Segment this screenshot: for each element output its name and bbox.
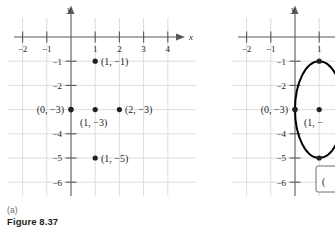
x-tick-label: 3 [141, 44, 146, 54]
panel-b: y −2 −1 1 −1 −2 −4 −5 [210, 0, 335, 238]
x-tick-label: −2 [242, 44, 252, 54]
y-tick-label: −6 [276, 178, 286, 188]
caption-letter-a: (a) [7, 205, 58, 216]
plot-panel-a: x y −2 −1 1 2 3 4 [0, 0, 205, 200]
x-tick-label: −2 [18, 44, 28, 54]
x-axis-label: x [188, 32, 193, 42]
panel-a: x y −2 −1 1 2 3 4 [0, 0, 205, 238]
data-point [317, 59, 322, 64]
data-point [93, 155, 98, 160]
y-tick-label: −2 [276, 81, 286, 91]
y-axis-label: y [66, 4, 71, 14]
x-tick-label: 4 [166, 44, 171, 54]
y-axis-tick-labels: −1 −2 −4 −5 −6 [276, 57, 286, 188]
x-tick-label: −1 [266, 44, 276, 54]
y-tick-label: −2 [52, 81, 62, 91]
y-tick-label: −5 [276, 153, 286, 163]
data-point [93, 59, 98, 64]
x-axis [14, 34, 185, 41]
plot-panel-b: y −2 −1 1 −1 −2 −4 −5 [210, 0, 335, 200]
y-axis-label: y [290, 4, 295, 14]
x-tick-label: −1 [42, 44, 52, 54]
x-axis-tick-labels: −2 −1 1 2 3 4 [18, 44, 171, 54]
point-label: (0, −3) [261, 104, 288, 116]
point-label: (1, −5) [101, 153, 128, 165]
caption-a: (a) Figure 8.37 [7, 205, 58, 228]
data-point [117, 107, 122, 112]
point-label: (1, −3) [80, 117, 107, 129]
data-point [68, 107, 74, 113]
callout-box: ( [316, 166, 335, 192]
x-tick-label: 2 [117, 44, 122, 54]
point-label: (0, −3) [37, 104, 64, 116]
y-axis [68, 6, 75, 197]
figure-number: Figure 8.37 [7, 216, 58, 228]
x-tick-label: 1 [317, 44, 322, 54]
y-tick-label: −1 [276, 57, 286, 67]
y-tick-label: −5 [52, 153, 62, 163]
point-label: (1, − [304, 117, 323, 129]
data-point [93, 107, 98, 112]
point-label: (1, −1) [101, 56, 128, 68]
data-point [292, 107, 298, 113]
y-tick-label: −4 [52, 129, 62, 139]
figure-8-37: x y −2 −1 1 2 3 4 [0, 0, 335, 238]
x-tick-label: 1 [93, 44, 98, 54]
data-point [317, 155, 322, 160]
y-tick-label: −1 [52, 57, 62, 67]
y-tick-label: −6 [52, 178, 62, 188]
point-label: (2, −3) [125, 104, 152, 116]
y-tick-label: −4 [276, 129, 286, 139]
x-axis-tick-labels: −2 −1 1 [242, 44, 322, 54]
data-point [317, 107, 322, 112]
y-axis-tick-labels: −1 −2 −4 −5 −6 [52, 57, 62, 188]
